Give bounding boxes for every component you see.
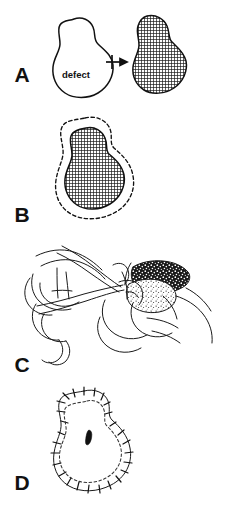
panel-label-a: A [14,63,29,86]
figure-container: defect A B [0,0,237,511]
panel-label-d: D [14,471,29,494]
panel-label-c: C [14,353,29,376]
surgical-figure: defect A B [0,0,237,511]
defect-text-label: defect [62,69,91,80]
panel-label-b: B [14,203,29,226]
